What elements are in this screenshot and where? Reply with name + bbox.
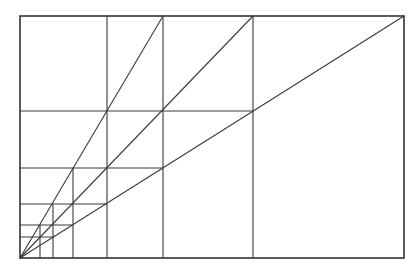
proportion-diagram <box>0 0 418 277</box>
horizontal-lines <box>20 111 253 237</box>
diagonal-lines <box>20 16 404 258</box>
vertical-lines <box>40 16 253 258</box>
diagonal-line <box>20 16 253 258</box>
diagonal-line <box>20 16 404 258</box>
diagonal-line <box>20 16 163 258</box>
